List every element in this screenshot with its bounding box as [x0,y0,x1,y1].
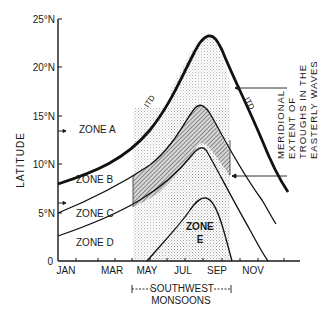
y-tick-5: 5°N [38,208,55,219]
zone-b-label: ZONE B [76,174,114,185]
y-axis-label: LATITUDE [15,132,26,188]
itd-label-right: ITD [242,96,256,112]
x-tick-mar: MAR [101,265,123,276]
y-tick-0: 0 [47,256,53,267]
zone-a-label: ZONE A [79,124,116,135]
zone-diagram: 25°N 20°N 15°N 10°N 5°N 0 LATITUDE JAN M… [0,0,334,311]
y-tick-20: 20°N [33,62,55,73]
itd-label-left: ITD [142,93,157,109]
side-note-line-1: MERIDIONAL [275,90,286,159]
zone-c-label: ZONE C [76,208,114,219]
zone-d-label: ZONE D [76,237,114,248]
side-note: MERIDIONAL EXTENT OF TROUGHS IN THE EAST… [275,60,319,159]
monsoon-label-2: MONSOONS [151,295,211,306]
x-tick-jan: JAN [57,265,76,276]
side-note-line-3: TROUGHS IN THE [297,64,308,159]
x-tick-sep: SEP [207,265,227,276]
y-tick-15: 15°N [33,111,55,122]
side-note-line-4: EASTERLY WAVES [308,60,319,159]
zone-e-label-2: E [197,234,204,245]
zone-e-label-1: ZONE [186,221,214,232]
side-note-line-2: EXTENT OF [286,97,297,159]
x-tick-nov: NOV [242,265,264,276]
y-axis-arrows [58,130,66,205]
x-tick-jul: JUL [174,265,192,276]
x-tick-may: MAY [137,265,158,276]
y-tick-25: 25°N [33,14,55,25]
monsoon-label-1: SOUTHWEST [150,283,214,294]
y-tick-10: 10°N [33,159,55,170]
